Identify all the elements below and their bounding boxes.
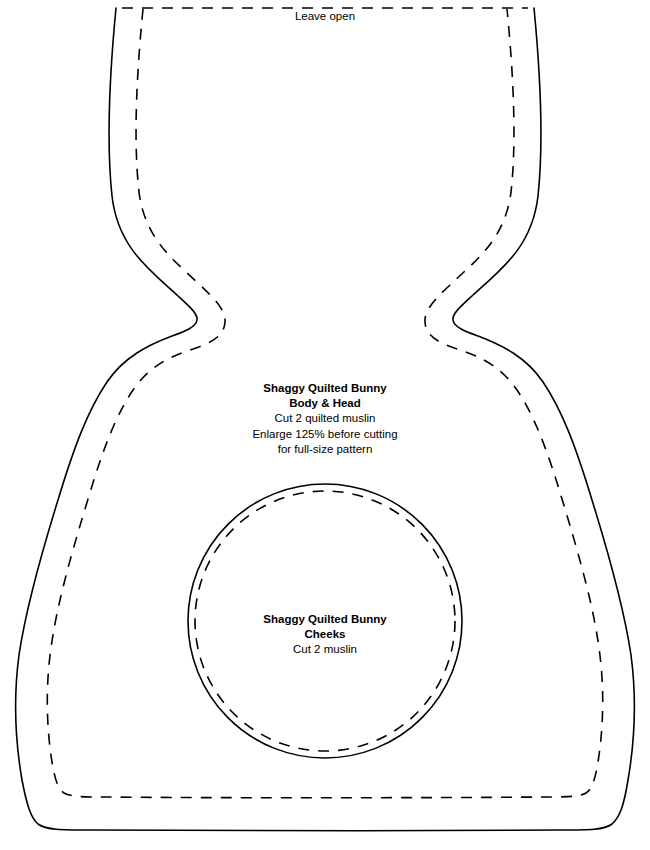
- cheeks-instruction-1: Cut 2 muslin: [0, 642, 650, 657]
- body-head-title-line-1: Shaggy Quilted Bunny: [0, 381, 650, 396]
- body-head-label: Shaggy Quilted Bunny Body & Head Cut 2 q…: [0, 381, 650, 457]
- cheeks-title-line-1: Shaggy Quilted Bunny: [0, 612, 650, 627]
- body-head-instruction-3: for full-size pattern: [0, 442, 650, 457]
- body-head-instruction-1: Cut 2 quilted muslin: [0, 411, 650, 426]
- pattern-sheet: Leave open Shaggy Quilted Bunny Body & H…: [0, 0, 650, 850]
- leave-open-note: Leave open: [0, 9, 650, 24]
- body-head-title-line-2: Body & Head: [0, 396, 650, 411]
- leave-open-text: Leave open: [0, 9, 650, 24]
- cheeks-title-line-2: Cheeks: [0, 627, 650, 642]
- body-head-instruction-2: Enlarge 125% before cutting: [0, 427, 650, 442]
- cheeks-label: Shaggy Quilted Bunny Cheeks Cut 2 muslin: [0, 612, 650, 658]
